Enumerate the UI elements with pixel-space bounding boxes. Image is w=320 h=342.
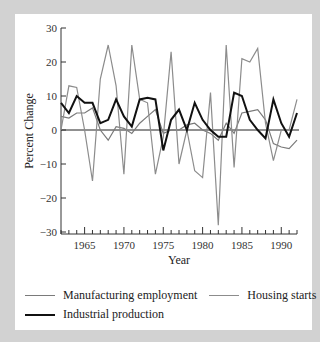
legend-swatch-manufacturing <box>25 295 55 296</box>
y-tick-label: −20 <box>40 192 58 204</box>
legend-label-manufacturing: Manufacturing employment <box>63 288 197 303</box>
y-tick-label: −10 <box>40 158 58 170</box>
legend-row-1: Manufacturing employment Housing starts <box>25 288 316 303</box>
y-tick-label: 20 <box>46 56 58 68</box>
x-tick-label: 1985 <box>231 239 254 251</box>
x-tick-label: 1970 <box>113 239 136 251</box>
x-axis-title: Year <box>168 253 190 267</box>
x-tick-label: 1990 <box>270 239 293 251</box>
axes: 3020100−10−20−30196519701975198019851990 <box>40 22 299 251</box>
legend-row-2: Industrial production <box>25 307 164 322</box>
legend-label-industrial: Industrial production <box>63 307 164 322</box>
y-tick-label: −30 <box>40 226 58 238</box>
legend-swatch-industrial <box>25 314 55 316</box>
x-tick-label: 1965 <box>74 239 97 251</box>
x-tick-label: 1975 <box>152 239 175 251</box>
x-tick-label: 1980 <box>192 239 215 251</box>
y-tick-label: 30 <box>46 22 58 34</box>
y-tick-label: 0 <box>52 124 58 136</box>
legend-label-housing: Housing starts <box>247 288 316 303</box>
legend-swatch-housing <box>209 295 239 296</box>
series-lines <box>61 45 297 225</box>
y-tick-label: 10 <box>46 90 58 102</box>
y-axis-title: Percent Change <box>22 93 36 169</box>
series-industrial-production <box>61 93 297 151</box>
